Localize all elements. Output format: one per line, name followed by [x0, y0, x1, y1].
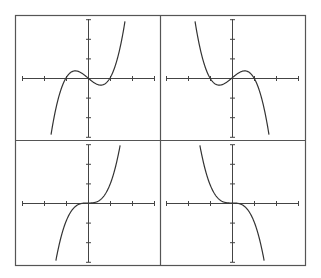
panel-top-right	[166, 19, 299, 137]
panel-top-left	[22, 19, 155, 137]
panel-bottom-left	[22, 145, 155, 263]
panel-bottom-right	[166, 145, 299, 263]
cubic-graphs-grid	[0, 0, 321, 278]
